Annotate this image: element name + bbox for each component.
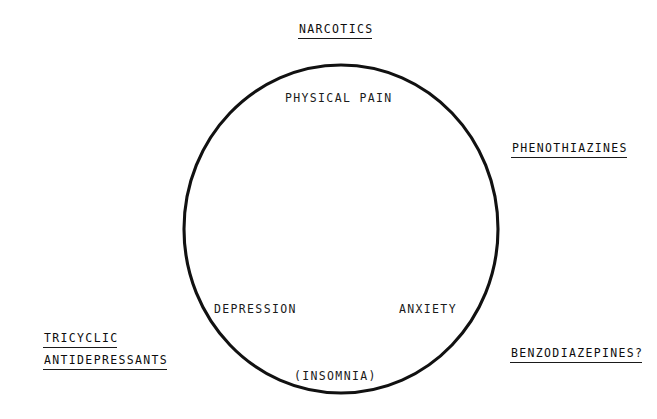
label-depression: DEPRESSION bbox=[214, 303, 297, 316]
label-benzodiazepines: BENZODIAZEPINES? bbox=[511, 347, 643, 360]
diagram-canvas: NARCOTICS PHENOTHIAZINES TRICYCLIC ANTID… bbox=[0, 0, 657, 419]
label-narcotics: NARCOTICS bbox=[299, 23, 373, 36]
label-antidepressants-text: ANTIDEPRESSANTS bbox=[44, 354, 168, 367]
label-benzodiazepines-text: BENZODIAZEPINES? bbox=[511, 347, 643, 360]
label-insomnia-text: (INSOMNIA) bbox=[294, 369, 377, 383]
label-phenothiazines: PHENOTHIAZINES bbox=[512, 142, 628, 155]
label-antidepressants: ANTIDEPRESSANTS bbox=[44, 354, 168, 367]
label-anxiety: ANXIETY bbox=[399, 303, 457, 316]
label-depression-text: DEPRESSION bbox=[214, 302, 297, 316]
symptom-circle-outline bbox=[184, 65, 498, 393]
label-anxiety-text: ANXIETY bbox=[399, 302, 457, 316]
label-tricyclic-text: TRICYCLIC bbox=[44, 332, 118, 345]
label-tricyclic: TRICYCLIC bbox=[44, 332, 118, 345]
label-physical-pain-text: PHYSICAL PAIN bbox=[285, 91, 393, 105]
label-insomnia: (INSOMNIA) bbox=[294, 370, 377, 383]
label-narcotics-text: NARCOTICS bbox=[299, 23, 373, 36]
label-physical-pain: PHYSICAL PAIN bbox=[285, 92, 393, 105]
label-phenothiazines-text: PHENOTHIAZINES bbox=[512, 142, 628, 155]
